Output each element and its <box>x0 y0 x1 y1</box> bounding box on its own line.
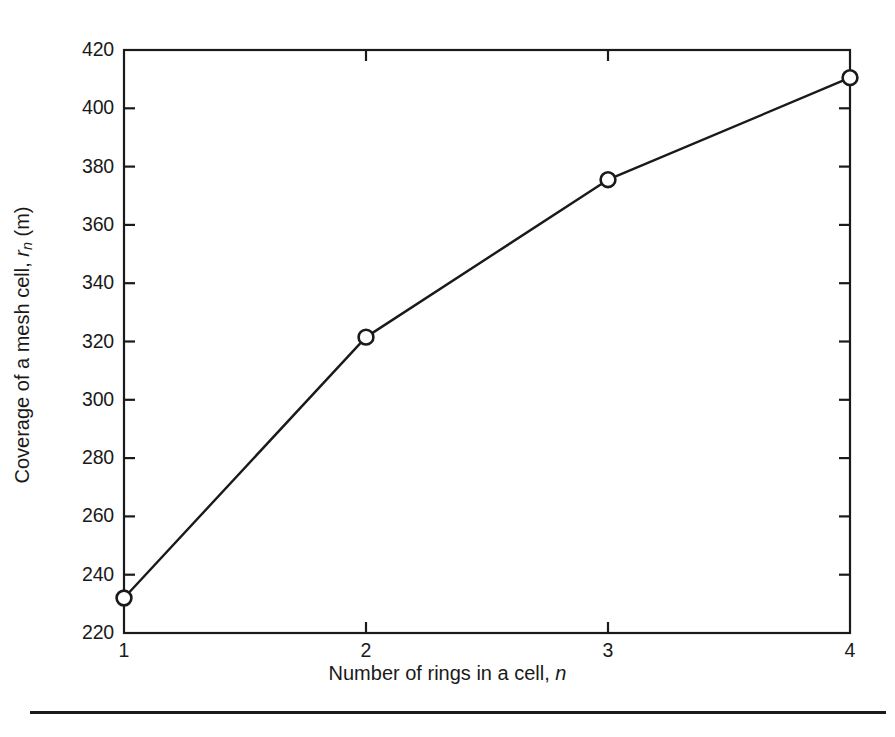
figure-bottom-rule <box>30 711 886 714</box>
line-chart-canvas <box>0 0 895 737</box>
y-axis-tick-label: 420 <box>40 40 114 60</box>
x-axis-title: Number of rings in a cell, n <box>0 662 895 685</box>
y-axis-title-variable: r <box>11 250 33 257</box>
y-axis-tick-label: 380 <box>40 157 114 177</box>
y-axis-tick-label: 400 <box>40 98 114 118</box>
data-point-marker[interactable] <box>843 70 858 85</box>
figure-container: 220240260280300320340360380400420 1234 N… <box>0 0 895 737</box>
y-axis-title-units: (m) <box>11 206 33 242</box>
y-axis-tick-label: 240 <box>40 565 114 585</box>
y-axis-tick-label: 260 <box>40 506 114 526</box>
data-point-marker[interactable] <box>601 172 616 187</box>
y-axis-tick-label: 280 <box>40 448 114 468</box>
y-axis-tick-label: 220 <box>40 623 114 643</box>
plot-background <box>124 50 850 633</box>
x-axis-tick-label: 4 <box>845 641 856 661</box>
y-axis-title-subscript: n <box>19 242 35 250</box>
y-axis-tick-label: 340 <box>40 273 114 293</box>
y-axis-tick-label: 320 <box>40 332 114 352</box>
y-axis-title-container: Coverage of a mesh cell, rn (m) <box>0 0 46 690</box>
x-axis-title-text: Number of rings in a cell, <box>329 662 556 684</box>
x-axis-title-variable: n <box>555 662 566 684</box>
x-axis-tick-label: 1 <box>119 641 130 661</box>
y-axis-title: Coverage of a mesh cell, rn (m) <box>11 206 36 483</box>
x-axis-tick-label: 3 <box>603 641 614 661</box>
data-point-marker[interactable] <box>117 591 132 606</box>
y-axis-tick-labels: 220240260280300320340360380400420 <box>40 0 114 737</box>
x-axis-tick-label: 2 <box>361 641 372 661</box>
data-point-marker[interactable] <box>359 330 374 345</box>
y-axis-title-text: Coverage of a mesh cell, <box>11 257 33 484</box>
y-axis-tick-label: 300 <box>40 390 114 410</box>
y-axis-tick-label: 360 <box>40 215 114 235</box>
